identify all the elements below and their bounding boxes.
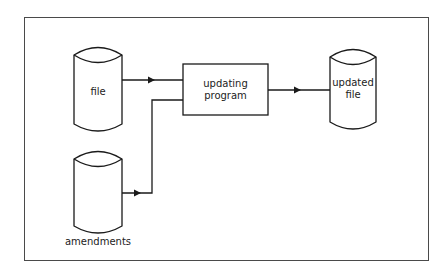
diagram-canvas: file amendments updating program updated… xyxy=(0,0,448,275)
program-label-line2: program xyxy=(204,90,247,101)
updating-program-box: updating program xyxy=(183,64,268,115)
diagram-frame xyxy=(25,18,429,261)
arrowhead-icon xyxy=(148,77,155,84)
arrowhead-icon xyxy=(294,87,301,94)
edge-amendments-to-program xyxy=(122,100,183,197)
updated-file-label-line2: file xyxy=(345,89,360,100)
file-label: file xyxy=(90,86,105,97)
updated-file-label-line1: updated xyxy=(332,77,374,88)
edge-file-to-program xyxy=(122,77,183,84)
file-cylinder: file xyxy=(74,48,122,132)
program-label-line1: updating xyxy=(203,78,248,89)
amendments-label: amendments xyxy=(65,236,131,247)
updated-file-cylinder: updated file xyxy=(330,50,376,130)
arrowhead-icon xyxy=(134,190,141,197)
amendments-cylinder: amendments xyxy=(65,152,131,248)
edge-program-to-updated-file xyxy=(268,87,330,94)
